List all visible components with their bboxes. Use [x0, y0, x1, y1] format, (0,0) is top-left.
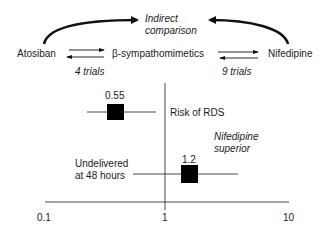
row-label-rds: Risk of RDS	[170, 107, 224, 118]
favour-label-line1: Nifedipine	[214, 131, 258, 142]
left-trials-label: 4 trials	[75, 66, 104, 77]
node-atosiban: Atosiban	[17, 48, 56, 59]
favour-label-line2: superior	[214, 143, 250, 154]
axis-tick-0-1: 0.1	[37, 212, 51, 223]
indirect-label-line1: Indirect	[145, 13, 178, 24]
row-label-undelivered-line1: Undelivered	[75, 158, 128, 169]
indirect-arrow-right	[210, 20, 288, 44]
axis-tick-1: 1	[162, 212, 168, 223]
node-nifedipine: Nifedipine	[268, 48, 312, 59]
right-trials-label: 9 trials	[222, 66, 251, 77]
indirect-label-line2: comparison	[145, 25, 197, 36]
estimate-label-rds: 0.55	[105, 90, 124, 101]
axis-tick-10: 10	[283, 212, 294, 223]
indirect-arrow-left	[44, 20, 137, 44]
estimate-box-undelivered	[181, 165, 198, 183]
estimate-label-undelivered: 1.2	[182, 154, 196, 165]
estimate-box-rds	[107, 104, 124, 120]
node-beta-sympathomimetics: β-sympathomimetics	[112, 48, 204, 59]
row-label-undelivered-line2: at 48 hours	[75, 170, 125, 181]
